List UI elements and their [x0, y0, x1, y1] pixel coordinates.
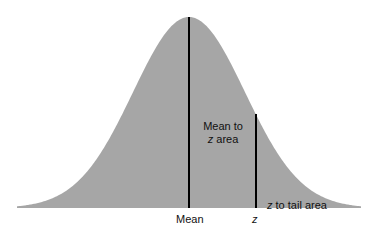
mean-to-z-label-line1: Mean to: [203, 120, 243, 133]
z-to-tail-area-label: z to tail area: [267, 199, 327, 212]
mean-to-z-area-label: Mean to z area: [203, 120, 243, 146]
z-axis-label: z: [252, 213, 258, 226]
mean-to-z-label-line2: z area: [203, 133, 243, 146]
mean-axis-label: Mean: [176, 213, 204, 226]
tail-area-text: to tail area: [273, 199, 327, 211]
area-word: area: [213, 133, 238, 145]
